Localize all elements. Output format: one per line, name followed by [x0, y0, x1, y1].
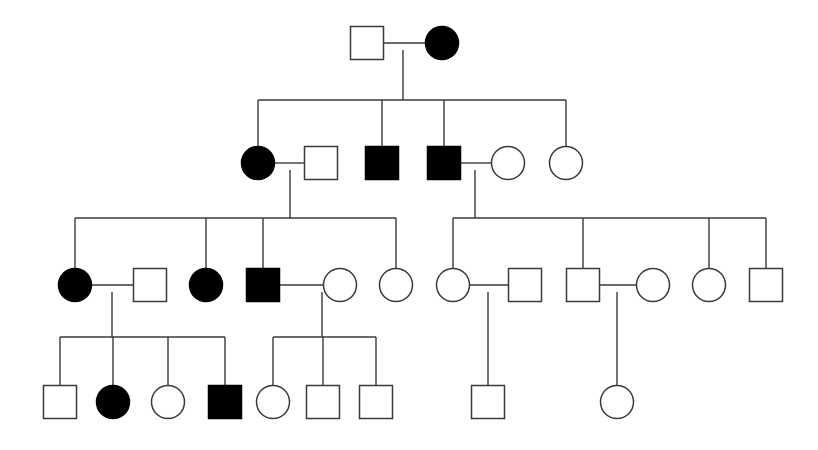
individual-square-unaffected[interactable]	[305, 147, 338, 180]
individual-square-unaffected[interactable]	[750, 269, 783, 302]
individual-circle-unaffected[interactable]	[152, 386, 185, 419]
individual-square-unaffected[interactable]	[351, 27, 384, 60]
individual-circle-unaffected[interactable]	[257, 386, 290, 419]
pedigree-chart-container	[0, 0, 818, 450]
individual-symbols-layer	[44, 27, 783, 419]
individual-circle-affected[interactable]	[97, 386, 130, 419]
individual-circle-unaffected[interactable]	[380, 269, 413, 302]
individual-square-unaffected[interactable]	[44, 386, 77, 419]
individual-circle-unaffected[interactable]	[693, 269, 726, 302]
individual-square-unaffected[interactable]	[509, 269, 542, 302]
individual-circle-affected[interactable]	[242, 147, 275, 180]
connector-lines-layer	[60, 43, 766, 385]
pedigree-diagram	[0, 0, 818, 450]
individual-square-unaffected[interactable]	[360, 386, 393, 419]
individual-square-unaffected[interactable]	[307, 386, 340, 419]
individual-square-unaffected[interactable]	[472, 386, 505, 419]
individual-circle-unaffected[interactable]	[324, 269, 357, 302]
individual-square-affected[interactable]	[247, 269, 280, 302]
individual-square-unaffected[interactable]	[567, 269, 600, 302]
individual-circle-unaffected[interactable]	[601, 386, 634, 419]
individual-circle-affected[interactable]	[59, 269, 92, 302]
individual-circle-affected[interactable]	[190, 269, 223, 302]
individual-square-affected[interactable]	[209, 386, 242, 419]
individual-circle-unaffected[interactable]	[492, 147, 525, 180]
individual-square-affected[interactable]	[428, 147, 461, 180]
individual-square-affected[interactable]	[366, 147, 399, 180]
individual-square-unaffected[interactable]	[134, 269, 167, 302]
individual-circle-unaffected[interactable]	[437, 269, 470, 302]
individual-circle-unaffected[interactable]	[637, 269, 670, 302]
individual-circle-affected[interactable]	[426, 27, 459, 60]
individual-circle-unaffected[interactable]	[550, 147, 583, 180]
